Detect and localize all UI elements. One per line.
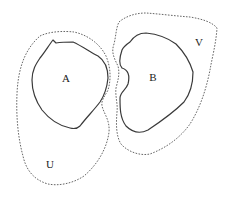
separation-diagram: [0, 0, 227, 198]
label-b: B: [149, 72, 156, 83]
label-u: U: [46, 159, 54, 170]
diagram-canvas: A B V U: [0, 0, 227, 198]
label-v: V: [195, 37, 203, 48]
label-a: A: [62, 73, 70, 84]
region-a-boundary: [32, 40, 108, 128]
region-b-boundary: [120, 33, 193, 132]
